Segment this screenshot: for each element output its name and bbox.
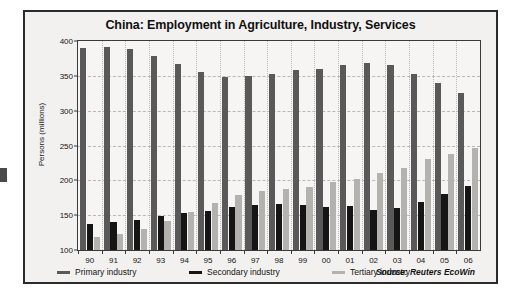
x-axis-tick-label: 93 xyxy=(156,256,165,265)
bar-tertiary-industry-90 xyxy=(94,237,100,250)
legend-label-secondary: Secondary industry xyxy=(207,267,280,277)
bar-tertiary-industry-04 xyxy=(425,159,431,250)
x-axis-tick-label: 90 xyxy=(85,256,94,265)
y-axis-tick-label: 350 xyxy=(60,71,73,80)
x-axis-tick-mark xyxy=(409,250,410,254)
x-gridline xyxy=(196,41,197,250)
bar-tertiary-industry-00 xyxy=(330,182,336,250)
bar-tertiary-industry-93 xyxy=(164,221,170,250)
x-axis-tick-mark xyxy=(125,250,126,254)
bar-secondary-industry-99 xyxy=(300,205,306,250)
x-axis-tick-mark xyxy=(291,250,292,254)
x-axis-tick-label: 97 xyxy=(251,256,260,265)
bar-secondary-industry-97 xyxy=(252,205,258,250)
x-axis-tick-mark xyxy=(149,250,150,254)
bar-secondary-industry-98 xyxy=(276,204,282,250)
bar-secondary-industry-90 xyxy=(87,224,93,250)
legend-swatch-primary-icon xyxy=(57,271,70,274)
x-gridline xyxy=(362,41,363,250)
bar-primary-industry-00 xyxy=(316,69,322,250)
y-axis-tick-mark xyxy=(74,75,78,76)
x-axis-tick-label: 02 xyxy=(369,256,378,265)
x-axis-tick-label: 06 xyxy=(464,256,473,265)
x-axis-tick-mark xyxy=(267,250,268,254)
x-gridline xyxy=(338,41,339,250)
x-gridline xyxy=(267,41,268,250)
bar-tertiary-industry-05 xyxy=(448,154,454,250)
bar-tertiary-industry-06 xyxy=(472,148,478,250)
bar-primary-industry-95 xyxy=(198,72,204,250)
legend-item-secondary-industry[interactable]: Secondary industry xyxy=(189,265,280,279)
legend-swatch-tertiary-icon xyxy=(332,271,345,274)
bar-primary-industry-05 xyxy=(435,83,441,250)
y-axis-title: Persons (millions) xyxy=(37,75,46,195)
x-gridline xyxy=(385,41,386,250)
bar-tertiary-industry-03 xyxy=(401,168,407,250)
y-axis-tick-label: 250 xyxy=(60,141,73,150)
chart-legend: Primary industry Secondary industry Tert… xyxy=(51,265,475,279)
bar-primary-industry-01 xyxy=(340,65,346,250)
x-axis-tick-label: 92 xyxy=(133,256,142,265)
y-axis-tick-label: 300 xyxy=(60,106,73,115)
plot-inner: 1001502002503003504009091929394959697989… xyxy=(78,41,480,250)
y-axis-tick-label: 200 xyxy=(60,176,73,185)
x-gridline xyxy=(102,41,103,250)
bar-secondary-industry-92 xyxy=(134,220,140,250)
y-axis-tick-mark xyxy=(74,41,78,42)
bar-primary-industry-90 xyxy=(80,48,86,250)
x-axis-tick-label: 95 xyxy=(204,256,213,265)
source-note: Source: Reuters EcoWin xyxy=(376,265,475,279)
legend-label-primary: Primary industry xyxy=(75,267,136,277)
bar-tertiary-industry-99 xyxy=(306,187,312,250)
bar-secondary-industry-91 xyxy=(110,222,116,250)
bar-primary-industry-92 xyxy=(127,49,133,250)
bar-primary-industry-03 xyxy=(387,65,393,250)
x-axis-tick-mark xyxy=(456,250,457,254)
x-gridline xyxy=(456,41,457,250)
x-axis-tick-mark xyxy=(196,250,197,254)
x-gridline xyxy=(244,41,245,250)
y-axis-tick-mark xyxy=(74,110,78,111)
x-axis-tick-mark xyxy=(244,250,245,254)
chart-frame: China: Employment in Agriculture, Indust… xyxy=(23,10,498,284)
x-axis-tick-label: 03 xyxy=(393,256,402,265)
bar-secondary-industry-05 xyxy=(441,194,447,250)
x-gridline xyxy=(149,41,150,250)
bar-tertiary-industry-92 xyxy=(141,229,147,250)
legend-swatch-secondary-icon xyxy=(189,271,202,274)
legend-item-primary-industry[interactable]: Primary industry xyxy=(57,265,136,279)
bar-primary-industry-97 xyxy=(245,76,251,250)
bar-primary-industry-94 xyxy=(175,64,181,250)
bar-tertiary-industry-91 xyxy=(117,234,123,250)
x-axis-tick-label: 04 xyxy=(416,256,425,265)
bar-secondary-industry-93 xyxy=(158,216,164,250)
chart-title: China: Employment in Agriculture, Indust… xyxy=(25,18,496,32)
y-axis-tick-mark xyxy=(74,180,78,181)
bar-primary-industry-96 xyxy=(222,77,228,250)
y-axis-tick-label: 100 xyxy=(60,246,73,255)
x-gridline xyxy=(125,41,126,250)
bar-tertiary-industry-98 xyxy=(283,189,289,250)
x-axis-tick-label: 94 xyxy=(180,256,189,265)
bar-secondary-industry-02 xyxy=(370,210,376,250)
chart-page: China: Employment in Agriculture, Indust… xyxy=(0,0,517,299)
bar-primary-industry-06 xyxy=(458,93,464,250)
x-axis-tick-mark xyxy=(173,250,174,254)
bar-primary-industry-04 xyxy=(411,74,417,250)
bar-tertiary-industry-95 xyxy=(212,203,218,250)
x-axis-tick-label: 99 xyxy=(298,256,307,265)
y-axis-tick-mark xyxy=(74,215,78,216)
x-gridline xyxy=(291,41,292,250)
bar-secondary-industry-04 xyxy=(418,202,424,250)
bar-primary-industry-93 xyxy=(151,56,157,250)
y-gridline xyxy=(78,111,480,112)
bar-primary-industry-91 xyxy=(104,47,110,250)
bar-tertiary-industry-96 xyxy=(235,195,241,250)
y-axis-tick-label: 150 xyxy=(60,211,73,220)
y-axis-tick-label: 400 xyxy=(60,37,73,46)
bar-secondary-industry-00 xyxy=(323,207,329,250)
x-gridline xyxy=(314,41,315,250)
bar-secondary-industry-94 xyxy=(181,213,187,250)
bar-secondary-industry-96 xyxy=(229,207,235,250)
x-axis-tick-mark xyxy=(362,250,363,254)
